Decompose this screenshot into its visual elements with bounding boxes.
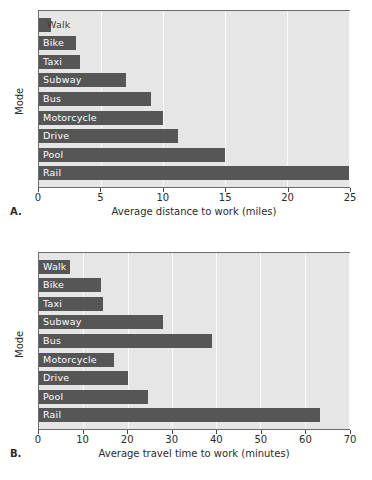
bar-row: Bus	[39, 92, 349, 106]
bar-bus	[39, 334, 212, 348]
bar-row: Bike	[39, 278, 349, 292]
bar-label: Bus	[43, 334, 61, 348]
tick-label: 60	[299, 434, 312, 445]
bar-row: Walk	[39, 260, 349, 274]
bar-label: Pool	[43, 148, 63, 162]
x-axis-title-b: Average travel time to work (minutes)	[38, 448, 350, 459]
bar-rail	[39, 408, 320, 422]
bar-label: Taxi	[43, 55, 62, 69]
y-axis-title-a: Mode	[14, 88, 25, 115]
bar-label: Bike	[43, 278, 64, 292]
tick-label: 0	[35, 434, 41, 445]
tick-label: 20	[281, 192, 294, 203]
x-axis-title-a: Average distance to work (miles)	[38, 206, 350, 217]
bar-row: Drive	[39, 129, 349, 143]
panel-letter-b: B.	[10, 448, 21, 459]
bar-label: Bus	[43, 92, 61, 106]
x-axis-a: 0510152025	[38, 188, 350, 208]
bar-label: Rail	[43, 166, 61, 180]
tick-label: 10	[76, 434, 89, 445]
bar-label: Subway	[43, 73, 82, 87]
tick-label: 5	[97, 192, 103, 203]
bar-row: Rail	[39, 166, 349, 180]
bar-row: Subway	[39, 315, 349, 329]
bar-row: Pool	[39, 148, 349, 162]
tick-label: 70	[344, 434, 357, 445]
bar-row: Drive	[39, 371, 349, 385]
bar-label: Subway	[43, 315, 82, 329]
bar-row: Pool	[39, 390, 349, 404]
bar-series-a: WalkBikeTaxiSubwayBusMotorcycleDrivePool…	[39, 11, 349, 187]
tick-label: 25	[344, 192, 357, 203]
bar-label: Taxi	[43, 297, 62, 311]
bar-row: Walk	[39, 18, 349, 32]
tick-label: 10	[156, 192, 169, 203]
plot-area-a: WalkBikeTaxiSubwayBusMotorcycleDrivePool…	[38, 10, 350, 188]
tick-label: 30	[165, 434, 178, 445]
bar-row: Motorcycle	[39, 111, 349, 125]
bar-row: Bike	[39, 36, 349, 50]
bar-label: Motorcycle	[43, 111, 97, 125]
bar-pool	[39, 148, 225, 162]
bar-row: Rail	[39, 408, 349, 422]
gridline	[349, 11, 350, 187]
panel-letter-a: A.	[10, 206, 22, 217]
tick-label: 0	[35, 192, 41, 203]
tick-label: 50	[254, 434, 267, 445]
bar-rail	[39, 166, 349, 180]
bar-row: Motorcycle	[39, 353, 349, 367]
bar-row: Bus	[39, 334, 349, 348]
bar-label: Motorcycle	[43, 353, 97, 367]
y-axis-title-b: Mode	[14, 331, 25, 358]
gridline	[349, 253, 350, 429]
bar-row: Taxi	[39, 55, 349, 69]
tick-label: 40	[210, 434, 223, 445]
tick-label: 20	[121, 434, 134, 445]
x-axis-b: 010203040506070	[38, 430, 350, 450]
bar-label: Drive	[43, 129, 69, 143]
bar-label: Walk	[47, 18, 71, 32]
bar-label: Rail	[43, 408, 61, 422]
bar-row: Taxi	[39, 297, 349, 311]
bar-label: Walk	[43, 260, 67, 274]
plot-area-b: WalkBikeTaxiSubwayBusMotorcycleDrivePool…	[38, 252, 350, 430]
bar-label: Bike	[43, 36, 64, 50]
bar-row: Subway	[39, 73, 349, 87]
bar-label: Drive	[43, 371, 69, 385]
chart-panel-a: WalkBikeTaxiSubwayBusMotorcycleDrivePool…	[0, 0, 372, 238]
bar-label: Pool	[43, 390, 63, 404]
chart-panel-b: WalkBikeTaxiSubwayBusMotorcycleDrivePool…	[0, 238, 372, 480]
bar-series-b: WalkBikeTaxiSubwayBusMotorcycleDrivePool…	[39, 253, 349, 429]
tick-label: 15	[219, 192, 232, 203]
